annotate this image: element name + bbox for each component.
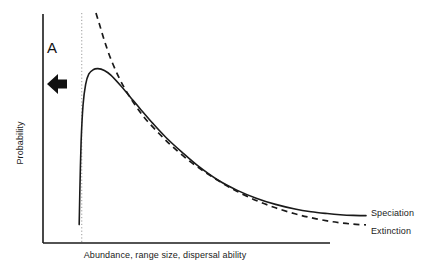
annotation-label-a: A bbox=[47, 40, 57, 55]
figure-container: Abundance, range size, dispersal ability… bbox=[0, 0, 446, 268]
left-arrow-icon bbox=[47, 74, 67, 94]
y-axis-label: Probability bbox=[15, 103, 25, 183]
extinction-curve bbox=[96, 13, 366, 225]
speciation-curve bbox=[79, 69, 366, 225]
legend-label-extinction: Extinction bbox=[371, 226, 411, 236]
x-axis-label: Abundance, range size, dispersal ability bbox=[0, 250, 330, 260]
legend-label-speciation: Speciation bbox=[371, 208, 414, 218]
